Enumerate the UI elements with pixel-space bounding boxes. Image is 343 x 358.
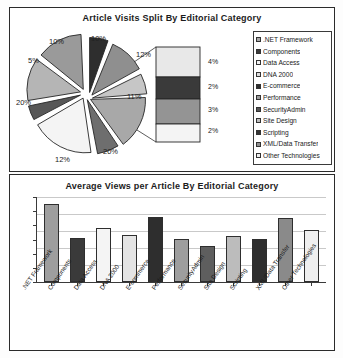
legend-swatch-icon — [256, 37, 261, 42]
legend-item-xml-data-transfer[interactable]: XML/Data Transfer — [256, 138, 330, 150]
legend-label: E-commerce — [263, 80, 300, 92]
legend-label: Other Technologies — [263, 150, 320, 162]
pie-label-8: 10% — [49, 37, 64, 46]
gridline — [36, 214, 326, 215]
pie-chart-panel: Article Visits Split By Editorial Catego… — [9, 7, 335, 172]
legend-item-data-access[interactable]: Data Access — [256, 57, 330, 69]
pie-label-7: 5% — [28, 56, 39, 65]
pie-label-2: 12% — [136, 50, 151, 59]
legend-swatch-icon — [256, 49, 261, 54]
legend-swatch-icon — [256, 95, 261, 100]
legend-item-performance[interactable]: Performance — [256, 92, 330, 104]
legend-swatch-icon — [256, 107, 261, 112]
x-axis-labels: .NET Framework Components Data Access DN… — [36, 285, 336, 347]
legend-item-securityadmin[interactable]: SecurityAdmin — [256, 104, 330, 116]
legend-label: Performance — [263, 92, 301, 104]
callout-label-1: 4% — [208, 58, 218, 65]
pie-label-5: 12% — [55, 155, 70, 164]
legend-label: .NET Framework — [263, 34, 313, 46]
callout-segment-2 — [156, 77, 200, 99]
legend-item-e-commerce[interactable]: E-commerce — [256, 80, 330, 92]
legend-label: Site Design — [263, 115, 297, 127]
legend-label: Scripting — [263, 127, 289, 139]
legend-item-net-framework[interactable]: .NET Framework — [256, 34, 330, 46]
callout-label-3: 3% — [208, 106, 218, 113]
legend-swatch-icon — [256, 118, 261, 123]
callout-label-4: 2% — [208, 127, 218, 134]
bar-chart-title: Average Views per Article By Editorial C… — [10, 181, 334, 191]
bar-plot-area — [36, 197, 326, 283]
legend-swatch-icon — [256, 153, 261, 158]
pie-label-1: 10% — [91, 34, 106, 43]
legend-swatch-icon — [256, 72, 261, 77]
bar-chart-panel: Average Views per Article By Editorial C… — [9, 174, 335, 351]
pie-label-3: 11% — [127, 92, 141, 101]
callout-segment-3 — [156, 99, 200, 124]
callout-stacked-bar — [156, 47, 200, 142]
y-axis-tick — [33, 211, 37, 212]
legend-item-other-technologies[interactable]: Other Technologies — [256, 150, 330, 162]
pie-label-4: 20% — [103, 147, 118, 156]
y-axis-tick — [33, 197, 37, 198]
gridline — [36, 197, 326, 198]
pie-label-6: 20% — [16, 98, 31, 107]
legend-swatch-icon — [256, 142, 261, 147]
pie-plot-area: 10% 12% 11% 20% 12% 20% 5% 10% 4% 2% 3% … — [14, 26, 254, 168]
legend-label: DNA 2000 — [263, 69, 293, 81]
y-axis-tick — [33, 254, 37, 255]
legend-item-scripting[interactable]: Scripting — [256, 127, 330, 139]
legend-swatch-icon — [256, 60, 261, 65]
callout-label-2: 2% — [208, 83, 218, 90]
legend-label: Data Access — [263, 57, 300, 69]
y-axis-tick — [33, 225, 37, 226]
legend-swatch-icon — [256, 84, 261, 89]
y-axis-tick — [33, 240, 37, 241]
legend-label: SecurityAdmin — [263, 104, 306, 116]
pie-chart-title: Article Visits Split By Editorial Catego… — [10, 13, 334, 23]
callout-segment-1 — [156, 47, 200, 77]
legend-item-site-design[interactable]: Site Design — [256, 115, 330, 127]
callout-segment-4 — [156, 124, 200, 142]
y-axis-tick — [33, 282, 37, 283]
legend-item-dna-2000[interactable]: DNA 2000 — [256, 69, 330, 81]
figure-container: Article Visits Split By Editorial Catego… — [0, 0, 343, 358]
legend-label: Components — [263, 46, 300, 58]
pie-chart-legend: .NET Framework Components Data Access DN… — [253, 31, 332, 165]
legend-item-components[interactable]: Components — [256, 46, 330, 58]
legend-swatch-icon — [256, 130, 261, 135]
legend-label: XML/Data Transfer — [263, 138, 318, 150]
